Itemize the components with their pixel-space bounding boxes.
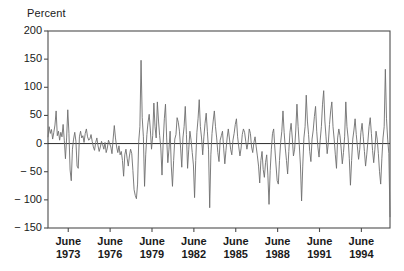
x-tick-year: 1994 — [331, 248, 391, 261]
chart-figure: Percent 200150100500− 50− 100− 150 June1… — [0, 0, 404, 271]
x-tick-month: June — [331, 235, 391, 248]
x-tick-label: June1994 — [331, 235, 391, 261]
x-axis-tick-labels: June1973June1976June1979June1982June1985… — [0, 0, 404, 271]
